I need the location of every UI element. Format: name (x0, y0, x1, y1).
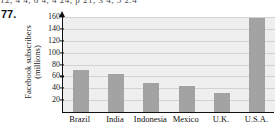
y-axis-tick-mark (60, 52, 64, 53)
x-axis-category-label: Indonesia (134, 114, 167, 124)
plot-area (62, 17, 275, 112)
x-axis-category-label: India (106, 114, 123, 124)
gridline (63, 88, 275, 89)
y-axis-tick-label: 60 (52, 72, 60, 80)
gridline (63, 53, 275, 54)
y-axis-tick-mark (60, 40, 64, 41)
y-axis-tick-mark (60, 28, 64, 29)
y-axis-tick-label: 80 (52, 61, 60, 69)
cropped-previous-line: 12, 4 4, 6 4, 4 24, p 21, 3 4, 5 2.4 (0, 0, 276, 7)
x-axis-category-label: Mexico (173, 114, 199, 124)
x-axis-category-label: U.S.A. (245, 114, 268, 124)
y-axis-tick-mark (60, 64, 64, 65)
gridline (63, 17, 275, 18)
bar (143, 83, 159, 112)
bar (73, 70, 89, 112)
x-axis-category-label: U.K. (213, 114, 230, 124)
bar (108, 74, 124, 112)
gridline (63, 76, 275, 77)
gridline (63, 41, 275, 42)
cropped-previous-line-text: 12, 4 4, 6 4, 4 24, p 21, 3 4, 5 2.4 (0, 0, 137, 5)
bar (179, 86, 195, 112)
y-axis-title-line1: Facebook subscribers (23, 25, 33, 98)
y-axis-tick-mark (60, 88, 64, 89)
x-axis-category-labels: BrazilIndiaIndonesiaMexicoU.K.U.S.A. (62, 114, 274, 128)
y-axis-tick-labels: 20406080100120140160 (40, 12, 60, 113)
y-axis-tick-label: 20 (52, 96, 60, 104)
y-axis-tick-mark (60, 76, 64, 77)
bar (214, 93, 230, 112)
y-axis-arrow-icon (59, 11, 65, 17)
x-axis-category-label: Brazil (69, 114, 90, 124)
figure-container: 12, 4 4, 6 4, 4 24, p 21, 3 4, 5 2.4 77.… (0, 0, 276, 130)
gridline (63, 29, 275, 30)
y-axis-tick-label: 40 (52, 84, 60, 92)
bar (249, 18, 265, 112)
y-axis-tick-label: 160 (48, 13, 60, 21)
gridline (63, 65, 275, 66)
y-axis-tick-mark (60, 100, 64, 101)
y-axis-tick-label: 140 (48, 25, 60, 33)
y-axis-tick-label: 100 (48, 49, 60, 57)
gridline (63, 100, 275, 101)
y-axis-tick-label: 120 (48, 37, 60, 45)
problem-number: 77. (1, 8, 16, 20)
